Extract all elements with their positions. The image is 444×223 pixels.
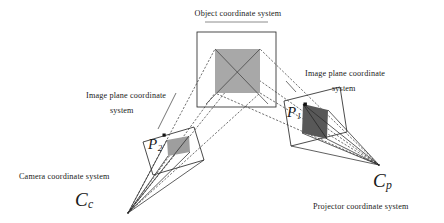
- camera-image-point-subscript: 2: [157, 143, 162, 153]
- image-plane-right-label-line2: system: [332, 84, 356, 94]
- projector-image-point-symbol: P1: [287, 103, 301, 122]
- camera-center-marker: [127, 212, 129, 214]
- projector-converge-2: [328, 110, 379, 165]
- camera-image-point-symbol: P2: [148, 135, 162, 154]
- image-plane-left-label-line1: Image plane coordinate: [86, 91, 166, 101]
- camera-converge-3: [128, 152, 190, 213]
- projector-image-point-base: P: [287, 104, 296, 120]
- image-plane-right-label-line1: Image plane coordinate: [305, 69, 385, 79]
- camera-image-point-base: P: [148, 136, 157, 152]
- projector-converge-3: [327, 139, 379, 165]
- projector-center-subscript: p: [386, 179, 392, 192]
- projector-center-symbol: Cp: [373, 169, 392, 194]
- projector-image-point-dot: [304, 103, 307, 106]
- projector-center-marker: [378, 164, 380, 166]
- diagram-canvas: Object coordinate system Image plane coo…: [0, 0, 444, 223]
- projector-ray-to-object-tr: [260, 49, 379, 165]
- camera-center-symbol: Cc: [75, 188, 93, 213]
- projector-coordinate-system-label: Projector coordinate system: [313, 202, 408, 212]
- camera-converge-5: [128, 160, 204, 213]
- object-coordinate-system-label: Object coordinate system: [176, 9, 300, 19]
- image-plane-left-label-line2: system: [110, 106, 134, 116]
- projector-center-base: C: [373, 170, 386, 191]
- camera-center-base: C: [75, 189, 88, 210]
- camera-image-point-dot: [163, 134, 166, 137]
- camera-convergence-lines: [128, 136, 204, 213]
- camera-converge-4: [128, 156, 168, 213]
- camera-coordinate-system-label: Camera coordinate system: [19, 172, 109, 182]
- camera-center-subscript: c: [88, 198, 94, 211]
- projector-image-point-subscript: 1: [296, 111, 301, 121]
